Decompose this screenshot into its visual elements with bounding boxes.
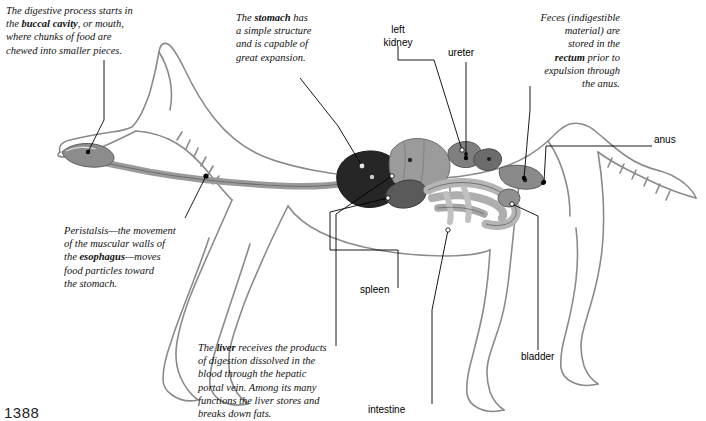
annotation-buccal-cavity-line2c: , or mouth, <box>78 18 124 29</box>
label-anus: anus <box>654 134 698 147</box>
annotation-peristalsis-line2: of the muscular walls of <box>64 238 165 249</box>
annotation-liver-line1c: receives the products <box>236 342 327 353</box>
annotation-stomach-line2: a simple structure <box>236 25 311 36</box>
annotation-buccal-cavity-line4: chewed into smaller pieces. <box>6 45 122 56</box>
annotation-stomach-term: stomach <box>254 12 290 23</box>
annotation-feces-line4b: prior to <box>585 52 620 63</box>
leader-feces <box>524 86 530 178</box>
label-spleen: spleen <box>360 284 416 297</box>
label-bladder-text: bladder <box>521 351 554 362</box>
annotation-liver-line2: of digestion dissolved in the <box>198 355 315 366</box>
annotation-stomach-line4: great expansion. <box>236 52 306 63</box>
annotation-stomach-line1c: has <box>291 12 308 23</box>
buccal-cavity-organ <box>62 143 114 167</box>
leader-bladder <box>512 204 538 350</box>
annotation-buccal-cavity-term: buccal cavity <box>21 18 77 29</box>
leader-left-kidney <box>398 46 462 150</box>
annotation-buccal-cavity: The digestive process starts in the bucc… <box>6 4 158 57</box>
label-left-kidney-line1: left <box>391 24 404 35</box>
annotation-feces-term: rectum <box>555 52 585 63</box>
page-number: 1388 <box>4 404 39 421</box>
annotation-stomach-line1a: The <box>236 12 254 23</box>
annotation-liver-line3: blood through the hepatic <box>198 368 306 379</box>
annotation-buccal-cavity-line3: where chunks of food are <box>6 31 111 42</box>
annotation-peristalsis-line5: the stomach. <box>64 278 117 289</box>
annotation-feces-line1: Feces (indigestible <box>540 12 620 23</box>
label-spleen-text: spleen <box>360 284 389 295</box>
annotation-buccal-cavity-line2a: the <box>6 18 21 29</box>
bladder-organ <box>498 189 520 207</box>
annotation-peristalsis: Peristalsis—the movement of the muscular… <box>64 224 218 290</box>
annotation-liver-line5: functions the liver stores and <box>198 395 320 406</box>
annotation-liver: The liver receives the products of diges… <box>198 341 356 420</box>
annotation-peristalsis-term: esophagus <box>79 251 125 262</box>
leader-buccal-cavity <box>88 60 104 152</box>
leader-stomach <box>300 78 362 166</box>
label-intestine-text: intestine <box>368 404 405 415</box>
annotation-stomach: The stomach has a simple structure and i… <box>236 11 354 64</box>
label-left-kidney-line2: kidney <box>384 37 413 48</box>
annotation-feces-line3: stored in the <box>568 38 620 49</box>
label-intestine: intestine <box>368 404 438 417</box>
annotation-peristalsis-line1: Peristalsis—the movement <box>64 225 176 236</box>
annotation-feces-line5: expulsion through <box>544 65 620 76</box>
leader-peristalsis <box>185 176 206 218</box>
annotation-liver-line4: portal vein. Among its many <box>198 382 317 393</box>
label-left-kidney: left kidney <box>368 24 428 49</box>
label-ureter-text: ureter <box>448 47 474 58</box>
annotation-feces-line6: the anus. <box>582 78 620 89</box>
annotation-feces-line2: material) are <box>565 25 620 36</box>
annotation-peristalsis-line3c: —moves <box>125 251 161 262</box>
label-anus-text: anus <box>654 134 676 145</box>
kidney-organ <box>448 142 502 171</box>
label-ureter: ureter <box>448 47 498 60</box>
annotation-stomach-line3: and is capable of <box>236 38 308 49</box>
annotation-feces-rectum: Feces (indigestible material) are stored… <box>498 11 620 90</box>
annotation-peristalsis-line4: food particles toward <box>64 265 154 276</box>
label-bladder: bladder <box>521 351 585 364</box>
annotation-peristalsis-line3a: the <box>64 251 79 262</box>
annotation-liver-line6: breaks down fats. <box>198 408 271 419</box>
annotation-buccal-cavity-line1: The digestive process starts in <box>6 5 133 16</box>
annotation-liver-term: liver <box>216 342 235 353</box>
annotation-liver-line1a: The <box>198 342 216 353</box>
figure-canvas: The digestive process starts in the bucc… <box>0 0 706 421</box>
